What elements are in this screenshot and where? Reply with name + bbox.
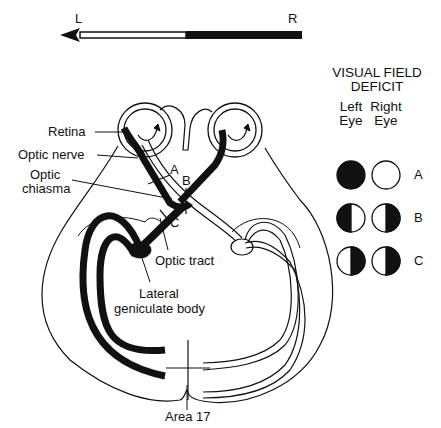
- legend-row-a-label: A: [414, 168, 423, 182]
- row-b-right-eye-field: [386, 204, 400, 232]
- lesion-c-label: C: [170, 216, 179, 230]
- optic-tract-label: Optic tract: [155, 254, 214, 268]
- right-eye-header-line1: Right: [366, 100, 406, 114]
- lesion-b-label: B: [182, 174, 191, 188]
- row-c-right-eye-field: [386, 247, 400, 275]
- right-eye-header-line2: Eye: [366, 114, 406, 128]
- optic-chiasma-label-line2: chiasma: [22, 182, 70, 196]
- lesion-a-label: A: [170, 163, 179, 177]
- row-c-left-eye-field: [351, 247, 365, 275]
- orientation-arrow: [60, 28, 302, 42]
- row-a-right-eye-field: [372, 161, 400, 189]
- optic-nerve-label: Optic nerve: [18, 148, 84, 162]
- left-eye-header-line2: Eye: [331, 114, 371, 128]
- left-eye-header-line1: Left: [331, 100, 371, 114]
- legend-title-line1: VISUAL FIELD: [312, 66, 441, 80]
- left-visual-pathway: [83, 128, 223, 376]
- lgb-label-line1: Lateral: [139, 287, 179, 301]
- lgb-label-line2: geniculate body: [114, 302, 205, 316]
- area17-label: Area 17: [165, 410, 211, 424]
- row-b-symbols: [337, 204, 400, 232]
- row-c-symbols: [337, 247, 400, 275]
- legend-row-c-label: C: [414, 254, 423, 268]
- legend-title-line2: DEFICIT: [312, 80, 441, 94]
- optic-chiasma-label-line1: Optic: [30, 168, 60, 182]
- right-eye: [208, 103, 262, 157]
- legend-row-b-label: B: [414, 211, 423, 225]
- right-visual-pathway: [142, 140, 305, 398]
- row-b-left-eye-field: [337, 204, 351, 232]
- right-orientation-label: R: [288, 12, 297, 26]
- row-a-symbols: [337, 161, 400, 189]
- retina-label: Retina: [48, 125, 86, 139]
- row-a-left-eye-field: [337, 161, 365, 189]
- deficit-legend: [337, 161, 400, 275]
- left-orientation-label: L: [75, 12, 82, 26]
